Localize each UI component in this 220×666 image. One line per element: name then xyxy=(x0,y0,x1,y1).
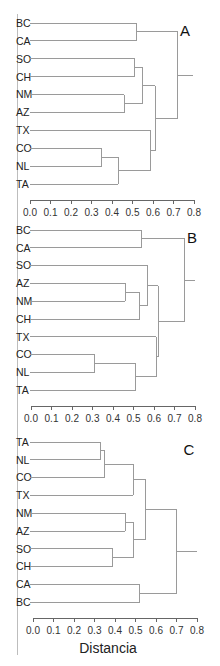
leaf-label-ca: CA xyxy=(16,35,31,47)
x-tick-label: 0.7 xyxy=(167,207,181,218)
leaf-label-bc: BC xyxy=(16,17,31,29)
x-tick-label: 0.2 xyxy=(67,625,81,636)
x-tick-label: 0.6 xyxy=(146,207,160,218)
x-tick-label: 0.1 xyxy=(44,207,58,218)
panel-letter-a: A xyxy=(180,22,190,39)
x-axis-title: Distancia xyxy=(79,640,137,656)
leaf-label-nm: NM xyxy=(16,507,32,519)
leaf-label-ta: TA xyxy=(16,436,29,448)
x-tick-label: 0.0 xyxy=(24,413,38,424)
x-tick-label: 0.0 xyxy=(23,207,37,218)
leaf-label-so: SO xyxy=(16,259,31,271)
leaf-label-nm: NM xyxy=(16,295,32,307)
x-tick-label: 0.1 xyxy=(47,625,61,636)
leaf-label-nm: NM xyxy=(16,88,32,100)
dendrogram-canvas: BCCASOCHNMAZTXCONLTAA0.00.10.20.30.40.50… xyxy=(0,0,220,666)
x-tick-label: 0.8 xyxy=(188,413,202,424)
x-tick-label: 0.8 xyxy=(187,207,201,218)
leaf-label-co: CO xyxy=(16,348,32,360)
panel-b-dendrogram: BCCASOAZNMCHTXCONLTAB0.00.10.20.30.40.50… xyxy=(16,224,202,424)
leaf-label-bc: BC xyxy=(16,224,31,236)
panel-letter-c: C xyxy=(184,441,195,458)
x-tick-label: 0.3 xyxy=(85,207,99,218)
leaf-label-ch: CH xyxy=(16,71,31,83)
leaf-label-tx: TX xyxy=(16,124,29,136)
x-tick-label: 0.6 xyxy=(147,413,161,424)
leaf-label-ta: TA xyxy=(16,384,29,396)
leaf-label-so: SO xyxy=(16,53,31,65)
dendrogram-figure: BCCASOCHNMAZTXCONLTAA0.00.10.20.30.40.50… xyxy=(0,0,220,666)
x-tick-label: 0.4 xyxy=(106,413,120,424)
x-tick-label: 0.4 xyxy=(108,625,122,636)
leaf-label-co: CO xyxy=(16,471,32,483)
leaf-label-co: CO xyxy=(16,142,32,154)
x-tick-label: 0.2 xyxy=(65,413,79,424)
x-tick-label: 0.4 xyxy=(105,207,119,218)
x-tick-label: 0.8 xyxy=(190,625,204,636)
leaf-label-so: SO xyxy=(16,543,31,555)
leaf-label-az: AZ xyxy=(16,106,30,118)
x-tick-label: 0.5 xyxy=(129,625,143,636)
x-tick-label: 0.6 xyxy=(149,625,163,636)
leaf-label-nl: NL xyxy=(16,366,30,378)
leaf-label-nl: NL xyxy=(16,454,30,466)
leaf-label-ch: CH xyxy=(16,313,31,325)
leaf-label-ch: CH xyxy=(16,560,31,572)
x-tick-label: 0.7 xyxy=(170,625,184,636)
leaf-label-ca: CA xyxy=(16,578,31,590)
x-tick-label: 0.0 xyxy=(26,625,40,636)
leaf-label-bc: BC xyxy=(16,596,31,608)
panel-c-dendrogram: TANLCOTXNMAZSOCHCABCC0.00.10.20.30.40.50… xyxy=(16,436,204,636)
x-tick-label: 0.5 xyxy=(127,413,141,424)
leaf-label-tx: TX xyxy=(16,331,29,343)
leaf-label-ca: CA xyxy=(16,242,31,254)
leaf-label-nl: NL xyxy=(16,160,30,172)
x-tick-label: 0.5 xyxy=(126,207,140,218)
leaf-label-az: AZ xyxy=(16,277,30,289)
leaf-label-ta: TA xyxy=(16,178,29,190)
panel-a-dendrogram: BCCASOCHNMAZTXCONLTAA0.00.10.20.30.40.50… xyxy=(16,17,201,218)
leaf-label-az: AZ xyxy=(16,525,30,537)
x-tick-label: 0.2 xyxy=(64,207,78,218)
panel-letter-b: B xyxy=(187,229,197,246)
x-tick-label: 0.7 xyxy=(168,413,182,424)
x-tick-label: 0.1 xyxy=(45,413,59,424)
x-tick-label: 0.3 xyxy=(88,625,102,636)
leaf-label-tx: TX xyxy=(16,489,29,501)
x-tick-label: 0.3 xyxy=(86,413,100,424)
